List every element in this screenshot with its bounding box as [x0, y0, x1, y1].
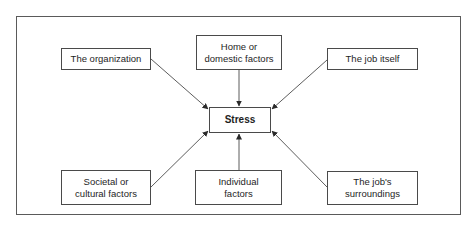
- factor-individual: Individual factors: [195, 170, 282, 205]
- factor-job-itself: The job itself: [327, 48, 418, 70]
- factor-organization: The organization: [61, 48, 151, 70]
- factor-societal-cultural: Societal or cultural factors: [61, 170, 151, 205]
- factor-label: The job's surroundings: [336, 176, 409, 200]
- center-label: Stress: [225, 114, 256, 126]
- factor-label: Individual factors: [210, 176, 267, 200]
- factor-label: Societal or cultural factors: [70, 176, 142, 200]
- factor-job-surroundings: The job's surroundings: [327, 171, 418, 205]
- factor-label: The organization: [71, 53, 142, 65]
- factor-home-domestic: Home or domestic factors: [196, 35, 282, 70]
- factor-label: The job itself: [346, 53, 400, 65]
- factor-label: Home or domestic factors: [203, 41, 275, 65]
- stress-center-node: Stress: [209, 107, 271, 133]
